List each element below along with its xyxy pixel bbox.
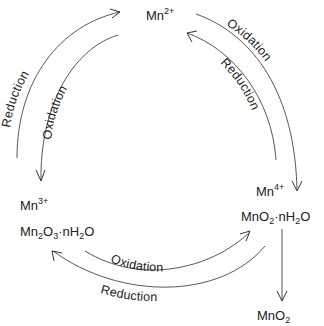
manganese-redox-cycle-diagram: Reduction Oxidation Oxidation Reduction … xyxy=(0,0,324,326)
label-right-outer-oxidation: Oxidation xyxy=(224,16,274,64)
arrow-left-outer-reduction xyxy=(17,9,120,158)
label-left-outer-reduction: Reduction xyxy=(0,68,32,128)
label-bottom-inner-oxidation: Oxidation xyxy=(109,252,163,275)
node-mn2plus: Mn2+ xyxy=(146,6,174,23)
compound-mn2o3-nh2o: Mn2O3·nH2O xyxy=(20,224,94,241)
compound-mno2-nh2o: MnO2·nH2O xyxy=(241,209,310,226)
label-left-inner-oxidation: Oxidation xyxy=(40,83,70,140)
node-mn4plus: Mn4+ xyxy=(256,182,284,199)
node-mn3plus: Mn3+ xyxy=(20,196,48,213)
arrowhead-icon xyxy=(36,170,45,181)
node-mno2: MnO2 xyxy=(257,308,290,325)
label-bottom-outer-reduction: Reduction xyxy=(99,282,157,304)
arrow-dehydration xyxy=(277,229,287,301)
label-right-inner-reduction: Reduction xyxy=(218,55,262,112)
